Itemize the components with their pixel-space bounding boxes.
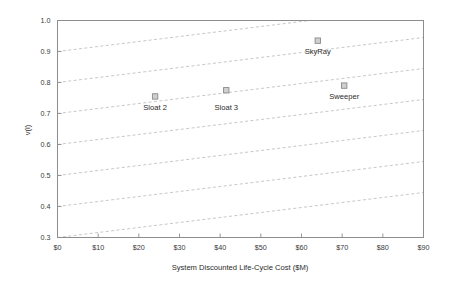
chart-background (0, 0, 460, 284)
y-tick-label-7: 1.0 (41, 16, 51, 25)
x-tick-label-6: $60 (296, 243, 308, 252)
x-tick-label-4: $40 (214, 243, 226, 252)
data-label-sloat-3: Sloat 3 (214, 103, 238, 112)
x-tick-label-8: $80 (377, 243, 389, 252)
scatter-chart: $0$10$20$30$40$50$60$70$80$90 0.30.40.50… (0, 0, 460, 284)
chart-svg: $0$10$20$30$40$50$60$70$80$90 0.30.40.50… (0, 0, 460, 284)
data-point-sloat-2 (152, 94, 157, 99)
y-tick-label-6: 0.9 (41, 47, 51, 56)
data-label-sweeper: Sweeper (329, 92, 359, 101)
data-point-sloat-3 (224, 88, 229, 93)
x-tick-label-2: $20 (133, 243, 145, 252)
x-axis-title: System Discounted Life-Cycle Cost ($M) (172, 263, 309, 272)
data-point-skyray (315, 38, 320, 43)
x-tick-label-5: $50 (255, 243, 267, 252)
x-tick-label-0: $0 (54, 243, 62, 252)
y-tick-label-4: 0.7 (41, 109, 51, 118)
x-tick-label-3: $30 (174, 243, 186, 252)
x-tick-label-7: $70 (336, 243, 348, 252)
data-label-skyray: SkyRay (305, 47, 331, 56)
y-tick-label-5: 0.8 (41, 78, 51, 87)
y-axis-title: v(i) (23, 124, 32, 135)
y-tick-label-0: 0.3 (41, 233, 51, 242)
y-tick-label-2: 0.5 (41, 171, 51, 180)
y-tick-label-3: 0.6 (41, 140, 51, 149)
x-tick-label-1: $10 (92, 243, 104, 252)
data-point-sweeper (342, 83, 347, 88)
data-label-sloat-2: Sloat 2 (143, 103, 167, 112)
y-tick-label-1: 0.4 (41, 202, 51, 211)
x-tick-label-9: $90 (418, 243, 430, 252)
